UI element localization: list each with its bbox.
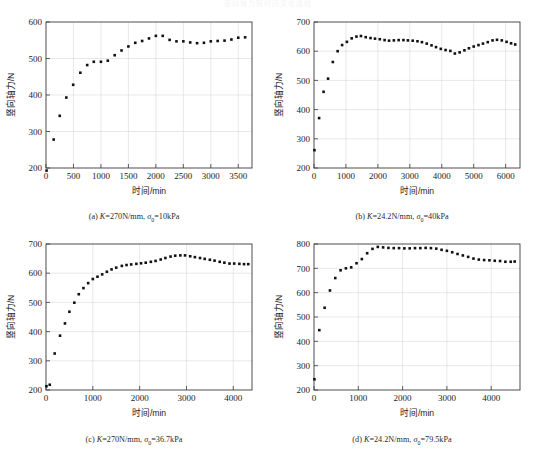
svg-text:500: 500: [29, 54, 43, 64]
plot-b: 2003004005006007000100020003000400050006…: [268, 8, 536, 204]
svg-text:2000: 2000: [131, 393, 150, 403]
plot-c: 20030040050060070001000200030004000时间/mi…: [0, 230, 268, 426]
svg-text:时间/min: 时间/min: [400, 185, 434, 196]
svg-text:0: 0: [44, 171, 49, 181]
svg-text:400: 400: [297, 105, 311, 115]
svg-text:4000: 4000: [433, 171, 452, 181]
svg-text:1000: 1000: [337, 171, 356, 181]
svg-text:2000: 2000: [394, 393, 413, 403]
panel-c-caption: (c) K=270N/mm, σ0=36.7kPa: [0, 435, 268, 446]
svg-text:3000: 3000: [177, 393, 196, 403]
svg-text:600: 600: [29, 268, 43, 278]
svg-text:竖向轴力/N: 竖向轴力/N: [273, 73, 284, 118]
svg-text:700: 700: [29, 239, 43, 249]
svg-text:500: 500: [67, 171, 81, 181]
plot-d: 20030040050060070080001000200030004000时间…: [268, 230, 536, 426]
panel-a-caption: (a) K=270N/mm, σ0=10kPa: [0, 212, 268, 223]
panel-a: 2003004005006000500100015002000250030003…: [0, 8, 268, 230]
svg-text:0: 0: [312, 171, 317, 181]
plot-a: 2003004005006000500100015002000250030003…: [0, 8, 268, 204]
scatter-chart-b: 2003004005006007000100020003000400050006…: [268, 8, 536, 204]
svg-text:2000: 2000: [369, 171, 388, 181]
svg-text:400: 400: [297, 337, 311, 347]
svg-text:300: 300: [29, 356, 43, 366]
panel-b-caption: (b) K=24.2N/mm, σ0=40kPa: [268, 212, 536, 223]
svg-text:2500: 2500: [174, 171, 193, 181]
svg-text:竖向轴力/N: 竖向轴力/N: [5, 73, 16, 118]
svg-text:3000: 3000: [202, 171, 221, 181]
svg-text:3500: 3500: [229, 171, 248, 181]
svg-text:1500: 1500: [119, 171, 138, 181]
svg-text:800: 800: [297, 239, 311, 249]
svg-text:700: 700: [297, 17, 311, 27]
panel-b: 2003004005006007000100020003000400050006…: [268, 8, 536, 230]
svg-text:1000: 1000: [92, 171, 111, 181]
svg-text:3000: 3000: [438, 393, 457, 403]
svg-text:300: 300: [297, 361, 311, 371]
svg-text:1000: 1000: [84, 393, 103, 403]
svg-text:400: 400: [29, 327, 43, 337]
svg-text:0: 0: [312, 393, 317, 403]
svg-text:3000: 3000: [401, 171, 420, 181]
svg-text:200: 200: [297, 385, 311, 395]
svg-text:4000: 4000: [224, 393, 243, 403]
svg-text:300: 300: [29, 127, 43, 137]
svg-text:500: 500: [297, 76, 311, 86]
svg-text:700: 700: [297, 264, 311, 274]
svg-text:4000: 4000: [482, 393, 501, 403]
svg-text:竖向轴力/N: 竖向轴力/N: [5, 295, 16, 340]
scatter-chart-c: 20030040050060070001000200030004000时间/mi…: [0, 230, 268, 426]
svg-text:1000: 1000: [349, 393, 368, 403]
svg-text:6000: 6000: [497, 171, 516, 181]
panel-d: 20030040050060070080001000200030004000时间…: [268, 230, 536, 457]
svg-text:400: 400: [29, 90, 43, 100]
svg-text:600: 600: [297, 288, 311, 298]
svg-text:500: 500: [29, 298, 43, 308]
svg-text:200: 200: [29, 385, 43, 395]
svg-text:时间/min: 时间/min: [400, 407, 434, 418]
svg-text:0: 0: [44, 393, 49, 403]
svg-text:时间/min: 时间/min: [132, 407, 166, 418]
svg-text:600: 600: [29, 17, 43, 27]
figure-panel-grid: 2003004005006000500100015002000250030003…: [0, 8, 536, 457]
svg-text:200: 200: [29, 163, 43, 173]
svg-text:300: 300: [297, 134, 311, 144]
panel-c: 20030040050060070001000200030004000时间/mi…: [0, 230, 268, 457]
svg-text:竖向轴力/N: 竖向轴力/N: [273, 295, 284, 340]
svg-text:600: 600: [297, 46, 311, 56]
svg-text:200: 200: [297, 163, 311, 173]
svg-text:2000: 2000: [147, 171, 166, 181]
panel-d-caption: (d) K=24.2N/mm, σ0=79.5kPa: [268, 435, 536, 446]
svg-text:500: 500: [297, 312, 311, 322]
svg-text:5000: 5000: [465, 171, 484, 181]
svg-text:时间/min: 时间/min: [132, 185, 166, 196]
figure-page: 竖向轴力随时间变化曲线 2003004005006000500100015002…: [0, 0, 536, 457]
scatter-chart-a: 2003004005006000500100015002000250030003…: [0, 8, 268, 204]
scatter-chart-d: 20030040050060070080001000200030004000时间…: [268, 230, 536, 426]
